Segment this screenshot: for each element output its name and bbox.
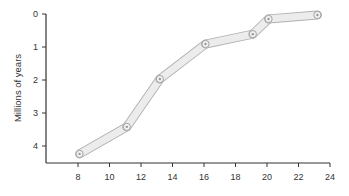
- y-tick-label: 2: [33, 75, 38, 85]
- data-point-center: [267, 18, 269, 20]
- y-tick-label: 1: [33, 42, 38, 52]
- data-point-center: [78, 153, 80, 155]
- segment-fill: [206, 34, 253, 44]
- data-point-center: [316, 14, 318, 16]
- x-tick-label: 24: [325, 172, 335, 182]
- x-tick-label: 18: [230, 172, 240, 182]
- x-tick-label: 8: [75, 172, 80, 182]
- y-tick-label: 4: [33, 141, 38, 151]
- data-point-center: [126, 126, 128, 128]
- segment-fill: [160, 44, 206, 79]
- x-tick-label: 20: [262, 172, 272, 182]
- data-point-center: [204, 43, 206, 45]
- x-tick-label: 16: [199, 172, 209, 182]
- chart: 0123481012141618202224 Millions of years: [0, 0, 349, 196]
- y-tick-label: 0: [33, 9, 38, 19]
- x-tick-label: 14: [167, 172, 177, 182]
- x-tick-label: 22: [293, 172, 303, 182]
- y-tick-label: 3: [33, 108, 38, 118]
- data-point-center: [159, 78, 161, 80]
- x-tick-label: 12: [136, 172, 146, 182]
- data-series: [76, 11, 321, 157]
- data-point-center: [252, 33, 254, 35]
- segment-fill: [269, 15, 318, 19]
- segment-fill: [80, 127, 127, 154]
- y-axis-title: Millions of years: [12, 54, 23, 122]
- segment-fill: [127, 79, 160, 127]
- x-tick-label: 10: [104, 172, 114, 182]
